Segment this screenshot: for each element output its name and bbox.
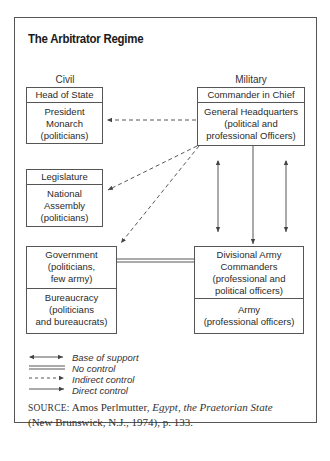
legend-label: Indirect control [72, 374, 134, 385]
source-citation: SOURCE: Amos Perlmutter, Egypt, the Prae… [28, 400, 298, 429]
legend-label: Direct control [72, 385, 128, 396]
source-book-title: Egypt, the Praetorian State [152, 401, 272, 413]
source-author: Amos Perlmutter, [72, 401, 150, 413]
connection-lines [0, 0, 330, 461]
source-prefix: SOURCE: [28, 403, 70, 413]
legend-label: Base of support [72, 352, 139, 363]
source-publication: (New Brunswick, N.J., 1974), p. 133. [28, 416, 193, 428]
indirect-control-arrow [121, 146, 199, 243]
legend-label: No control [72, 363, 115, 374]
indirect-control-arrow [108, 146, 197, 190]
